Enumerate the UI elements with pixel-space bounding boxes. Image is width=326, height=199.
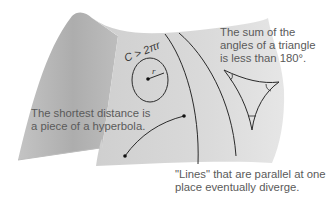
parallel-annotation-line: place eventually diverge. (175, 181, 326, 194)
shortest-annotation-line: The shortest distance is (31, 107, 150, 120)
triangle-annotation-line: is less than 180°. (220, 52, 315, 65)
endpoint-b (182, 114, 186, 118)
surface-left-fold (18, 12, 118, 160)
shortest-annotation-line: a piece of a hyperbola. (31, 120, 150, 133)
triangle-annotation: The sum of the angles of a triangle is l… (220, 26, 315, 65)
triangle-annotation-line: The sum of the (220, 26, 315, 39)
triangle-annotation-line: angles of a triangle (220, 39, 315, 52)
parallel-lines-annotation: "Lines" that are parallel at one place e… (175, 168, 326, 194)
endpoint-a (123, 154, 127, 158)
parallel-annotation-line: "Lines" that are parallel at one (175, 168, 326, 181)
radius-label: r (152, 66, 156, 76)
shortest-distance-annotation: The shortest distance is a piece of a hy… (31, 107, 150, 133)
circle-center-point (146, 77, 150, 81)
